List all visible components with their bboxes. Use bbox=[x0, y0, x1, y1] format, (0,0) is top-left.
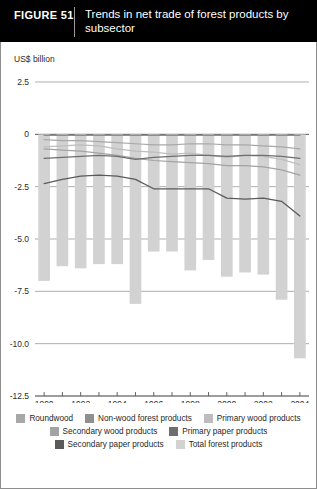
y-tick-label: -7.5 bbox=[14, 286, 29, 296]
legend-label: Primary paper products bbox=[182, 427, 267, 436]
chart-legend: RoundwoodNon-wood forest productsPrimary… bbox=[1, 414, 316, 453]
legend-item: Non-wood forest products bbox=[85, 414, 192, 423]
bar-total-forest-products bbox=[57, 134, 69, 266]
legend-swatch-icon bbox=[16, 414, 25, 423]
x-tick-label: 1996 bbox=[144, 399, 163, 403]
y-tick-label: 2.5 bbox=[17, 77, 29, 87]
figure-number-label: FIGURE 51 bbox=[0, 5, 74, 21]
legend-label: Non-wood forest products bbox=[98, 414, 192, 423]
legend-label: Secondary wood products bbox=[63, 427, 158, 436]
figure-header: FIGURE 51 Trends in net trade of forest … bbox=[0, 0, 317, 42]
legend-swatch-icon bbox=[204, 414, 213, 423]
x-tick-label: 1990 bbox=[35, 399, 54, 403]
bar-total-forest-products bbox=[166, 134, 178, 251]
legend-row: Secondary paper productsTotal forest pro… bbox=[1, 440, 316, 449]
legend-item: Secondary wood products bbox=[50, 427, 158, 436]
figure-title: Trends in net trade of forest products b… bbox=[75, 5, 317, 35]
bar-total-forest-products bbox=[203, 134, 215, 260]
x-tick-label: 2002 bbox=[254, 399, 273, 403]
x-axis bbox=[35, 392, 309, 396]
legend-swatch-icon bbox=[169, 427, 178, 436]
y-axis-unit-label: US$ billion bbox=[14, 54, 55, 64]
legend-swatch-icon bbox=[55, 440, 64, 449]
y-tick-label: -5.0 bbox=[14, 234, 29, 244]
x-tick-label: 1994 bbox=[108, 399, 127, 403]
total-forest-products-bars bbox=[38, 134, 305, 358]
legend-swatch-icon bbox=[85, 414, 94, 423]
y-axis-labels: 2.50-2.5-5.0-7.5-10.0-12.5 bbox=[10, 77, 30, 401]
x-tick-label: 2000 bbox=[217, 399, 236, 403]
legend-swatch-icon bbox=[176, 440, 185, 449]
legend-row: Secondary wood productsPrimary paper pro… bbox=[1, 427, 316, 436]
legend-item: Secondary paper products bbox=[55, 440, 164, 449]
legend-label: Secondary paper products bbox=[68, 440, 164, 449]
y-tick-label: 0 bbox=[24, 129, 29, 139]
legend-label: Roundwood bbox=[29, 414, 73, 423]
bar-total-forest-products bbox=[38, 134, 50, 281]
bar-total-forest-products bbox=[75, 134, 87, 268]
bar-total-forest-products bbox=[111, 134, 123, 264]
chart-plot-area: 2.50-2.5-5.0-7.5-10.0-12.5 1990199219941… bbox=[1, 68, 316, 403]
legend-label: Primary wood products bbox=[217, 414, 301, 423]
x-tick-label: 1992 bbox=[71, 399, 90, 403]
legend-swatch-icon bbox=[50, 427, 59, 436]
legend-row: RoundwoodNon-wood forest productsPrimary… bbox=[1, 414, 316, 423]
y-tick-label: -10.0 bbox=[10, 339, 30, 349]
legend-item: Total forest products bbox=[176, 440, 263, 449]
net-trade-chart: 2.50-2.5-5.0-7.5-10.0-12.5 1990199219941… bbox=[1, 68, 316, 403]
legend-label: Total forest products bbox=[189, 440, 263, 449]
bar-total-forest-products bbox=[294, 134, 306, 358]
y-tick-label: -2.5 bbox=[14, 182, 29, 192]
y-tick-label: -12.5 bbox=[10, 391, 30, 401]
x-tick-label: 1998 bbox=[181, 399, 200, 403]
x-tick-label: 2004 bbox=[290, 399, 309, 403]
x-axis-labels: 19901992199419961998200020022004 bbox=[35, 399, 310, 403]
figure-card: FIGURE 51 Trends in net trade of forest … bbox=[0, 0, 317, 489]
legend-item: Primary paper products bbox=[169, 427, 267, 436]
legend-item: Roundwood bbox=[16, 414, 73, 423]
legend-item: Primary wood products bbox=[204, 414, 301, 423]
figure-body: US$ billion 2.50-2.5-5.0-7.5-10.0-12.5 1… bbox=[0, 42, 317, 489]
